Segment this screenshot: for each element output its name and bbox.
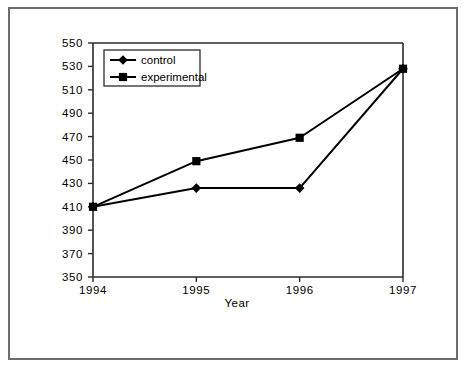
chart-legend: controlexperimental (104, 50, 207, 86)
y-tick-label: 510 (62, 84, 83, 96)
y-tick-label: 350 (62, 271, 83, 283)
y-tick-label: 530 (62, 60, 83, 72)
data-point-experimental-1995 (192, 157, 200, 165)
series-line-experimental (93, 69, 403, 207)
y-tick-label: 450 (62, 154, 83, 166)
y-tick-label: 550 (62, 37, 83, 49)
x-axis-ticks: 1994199519961997 (79, 277, 417, 296)
line-chart: 350370390410430450470490510530550 199419… (0, 0, 474, 366)
y-tick-label: 370 (62, 248, 83, 260)
y-tick-label: 410 (62, 201, 83, 213)
x-tick-label: 1996 (286, 284, 314, 296)
y-tick-label: 390 (62, 224, 83, 236)
x-tick-label: 1997 (389, 284, 417, 296)
y-tick-label: 490 (62, 107, 83, 119)
x-tick-label: 1994 (79, 284, 107, 296)
y-axis-ticks: 350370390410430450470490510530550 (62, 37, 93, 283)
x-axis-title: Year (225, 297, 250, 309)
data-point-control-1995 (192, 183, 202, 193)
data-point-experimental-1994 (89, 203, 97, 211)
y-tick-label: 430 (62, 177, 83, 189)
legend-label-control: control (141, 54, 176, 66)
legend-marker-square (119, 73, 127, 81)
y-tick-label: 470 (62, 131, 83, 143)
legend-label-experimental: experimental (141, 71, 207, 83)
x-tick-label: 1995 (182, 284, 210, 296)
data-point-experimental-1997 (399, 65, 407, 73)
data-point-experimental-1996 (296, 134, 304, 142)
